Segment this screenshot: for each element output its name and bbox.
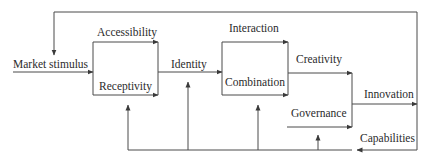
label-identity: Identity xyxy=(171,59,207,71)
label-combination: Combination xyxy=(225,77,285,89)
label-innovation: Innovation xyxy=(364,89,414,101)
innovation-process-diagram: Market stimulus Accessibility Receptivit… xyxy=(0,0,429,161)
label-creativity: Creativity xyxy=(296,54,342,66)
label-accessibility: Accessibility xyxy=(97,27,157,39)
label-governance: Governance xyxy=(291,108,347,120)
label-market-stimulus: Market stimulus xyxy=(13,59,88,71)
label-interaction: Interaction xyxy=(229,23,279,35)
label-capabilities: Capabilities xyxy=(360,133,415,145)
label-receptivity: Receptivity xyxy=(99,81,152,93)
